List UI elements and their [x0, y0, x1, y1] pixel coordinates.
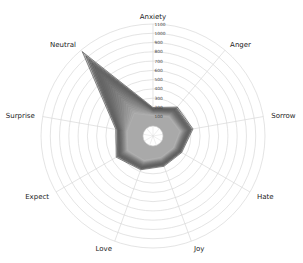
tick-label: 500 [155, 77, 163, 82]
tick-label: 100 [155, 114, 163, 119]
tick-label: 1000 [155, 31, 166, 36]
radar-chart: 10020030040050060070080090010001100 Anxi… [0, 0, 303, 263]
axis-label-neutral: Neutral [50, 41, 76, 49]
axis-label-hate: Hate [257, 193, 274, 201]
axis-label-sorrow: Sorrow [271, 112, 295, 120]
radial-tick-labels: 10020030040050060070080090010001100 [155, 22, 166, 120]
axis-label-surprise: Surprise [6, 112, 35, 120]
radar-plot-area: 10020030040050060070080090010001100 Anxi… [0, 0, 303, 263]
axis-label-anger: Anger [230, 41, 251, 49]
axis-label-joy: Joy [193, 245, 205, 253]
axis-label-anxiety: Anxiety [140, 13, 167, 21]
tick-label: 1100 [155, 22, 166, 27]
tick-label: 300 [155, 96, 163, 101]
tick-label: 600 [155, 68, 163, 73]
tick-label: 700 [155, 59, 163, 64]
tick-label: 800 [155, 49, 163, 54]
axis-label-love: Love [95, 245, 112, 253]
tick-label: 200 [155, 105, 163, 110]
tick-label: 400 [155, 86, 163, 91]
center-circle [143, 126, 163, 146]
tick-label: 900 [155, 40, 163, 45]
axis-label-expect: Expect [25, 193, 49, 201]
